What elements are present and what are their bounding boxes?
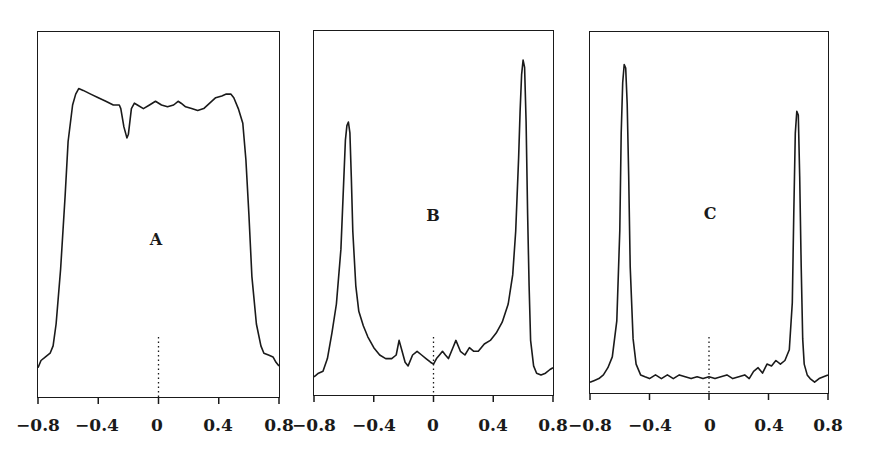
panel-label-c: C <box>704 204 717 223</box>
x-tick-label: −0.4 <box>628 415 672 435</box>
spectrum-curve-c <box>0 0 869 459</box>
x-tick-label: 0.4 <box>754 415 784 435</box>
x-tick-label: 0.8 <box>813 415 843 435</box>
x-tick-label: 0 <box>704 415 716 435</box>
x-tick-label: −0.8 <box>568 415 612 435</box>
